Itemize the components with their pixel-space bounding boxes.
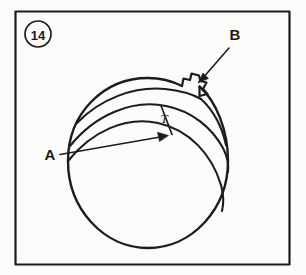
figure-number-text: 14 — [31, 28, 46, 43]
figure-container: 14 A B — [0, 0, 306, 275]
dimension-t-label: T — [160, 111, 168, 126]
technical-diagram-svg: 14 A B — [0, 0, 306, 275]
callout-b-label: B — [230, 26, 241, 43]
callout-a-label: A — [45, 146, 56, 163]
